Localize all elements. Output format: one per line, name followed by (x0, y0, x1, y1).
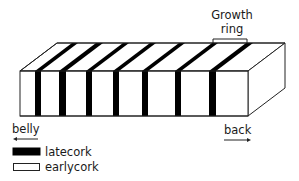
growth-ring-label-line2: ring (207, 23, 257, 35)
latecork-band-front (35, 71, 41, 116)
legend-swatch-latecork (13, 148, 40, 155)
latecork-band-front (113, 71, 119, 116)
belly-label: belly (12, 123, 40, 135)
latecork-band-front (175, 71, 181, 116)
latecork-band-front (142, 71, 148, 116)
latecork-band-front (209, 71, 216, 116)
growth-ring-label-line1: Growth (207, 9, 257, 21)
legend-swatch-earlycork (14, 164, 40, 171)
legend-label-latecork: latecork (45, 146, 92, 158)
growth-ring-label: Growth ring (207, 9, 257, 35)
belly-arrow-icon (13, 137, 38, 141)
legend-label-earlycork: earlycork (45, 161, 99, 173)
cork-block (20, 43, 285, 116)
growth-ring-bracket (213, 39, 247, 43)
latecork-band-front (86, 71, 92, 116)
back-label: back (224, 124, 251, 136)
latecork-band-front (59, 71, 66, 116)
back-arrow-icon (224, 138, 251, 142)
